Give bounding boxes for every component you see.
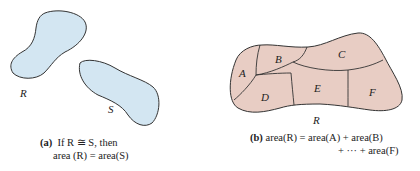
shape-s (79, 60, 159, 125)
region-r-label: R (312, 114, 320, 126)
caption-a-tag: (a) (40, 137, 52, 148)
caption-b-line1: (b) area(R) = area(A) + area(B) (250, 131, 399, 144)
subregion-label-a: A (238, 67, 246, 79)
shape-r (11, 11, 86, 78)
caption-b: (b) area(R) = area(A) + area(B) + ··· + … (250, 131, 399, 157)
caption-a-line2: area (R) = area(S) (40, 149, 129, 162)
caption-a: (a) If R ≅ S, then area (R) = area(S) (40, 136, 129, 162)
caption-b-text1: area(R) = area(A) + area(B) (265, 132, 382, 143)
caption-b-tag: (b) (250, 132, 263, 143)
subregion-label-b: B (275, 53, 282, 65)
caption-b-line2: + ··· + area(F) (250, 144, 399, 157)
shape-r-label: R (19, 87, 27, 99)
caption-a-line1: (a) If R ≅ S, then (40, 136, 129, 149)
caption-a-text1: If R ≅ S, then (58, 137, 118, 148)
subregion-label-c: C (338, 48, 346, 60)
subregion-label-d: D (260, 91, 269, 103)
subregion-label-e: E (313, 82, 321, 94)
shape-s-label: S (108, 103, 114, 115)
subregion-label-f: F (368, 86, 376, 98)
